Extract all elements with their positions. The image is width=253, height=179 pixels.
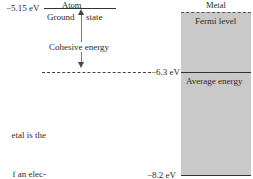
fermi-level-label: Fermi level [195,16,236,26]
average-energy-dashed-line [42,72,151,73]
arrow-down-icon [78,62,84,68]
average-energy-label: Average energy [186,76,242,86]
caption-line: f an elec- [0,168,46,179]
metal-title: Metal [206,0,226,10]
average-energy-line [181,72,251,73]
arrow-up-icon [78,9,84,15]
cohesive-energy-arrow [81,11,82,64]
state-label: state [86,12,103,22]
ground-label: Ground [47,12,75,22]
band-bottom-value: −8.2 eV [147,170,176,179]
average-energy-value: −6.3 eV [151,67,180,77]
caption-line: etal is the [0,129,46,142]
cohesive-energy-label: Cohesive energy [48,42,110,52]
metal-energy-band [181,12,251,176]
band-bottom-line [181,175,251,176]
atom-energy-label: −5.15 eV [6,3,40,13]
caption-text-fragment: etal is the f an elec- und state ron in … [0,103,46,179]
fermi-level-line [181,12,251,14]
